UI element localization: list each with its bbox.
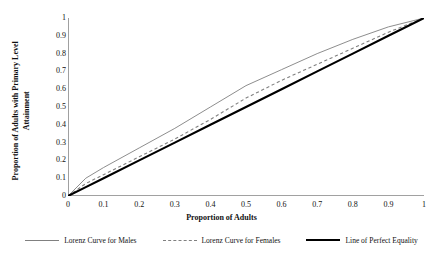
solid-thick-line-icon: [306, 239, 340, 241]
y-tick-label: 0.1: [32, 174, 66, 182]
legend-label-equality: Line of Perfect Equality: [345, 236, 417, 245]
y-tick-label: 0.9: [32, 32, 66, 40]
x-tick-label: 0.9: [383, 201, 393, 209]
chart-legend: Lorenz Curve for Males Lorenz Curve for …: [0, 232, 443, 248]
legend-label-females: Lorenz Curve for Females: [202, 236, 281, 245]
y-tick-label: 0: [32, 192, 66, 200]
x-tick-label: 0.7: [312, 201, 322, 209]
y-tick-label: 0.2: [32, 156, 66, 164]
x-tick-label: 0.5: [241, 201, 251, 209]
x-tick-label: 0.2: [134, 201, 144, 209]
x-tick-label: 0.3: [170, 201, 180, 209]
y-tick-label: 0.4: [32, 121, 66, 129]
lorenz-curve-chart: 00.10.20.30.40.50.60.70.80.91 00.10.20.3…: [0, 0, 443, 259]
legend-label-males: Lorenz Curve for Males: [64, 236, 136, 245]
y-tick-label: 1: [32, 14, 66, 22]
y-tick-label: 0.8: [32, 50, 66, 58]
x-tick-label: 0.4: [205, 201, 215, 209]
y-tick-label: 0.3: [32, 139, 66, 147]
y-axis-title-line-1: Proportion of Adults with Primary Level: [11, 21, 22, 201]
y-tick-label: 0.5: [32, 103, 66, 111]
legend-item-equality: Line of Perfect Equality: [306, 236, 417, 245]
x-tick-label: 1: [422, 201, 426, 209]
legend-item-females: Lorenz Curve for Females: [163, 236, 281, 245]
dashed-line-icon: [163, 240, 197, 241]
series-line-line-of-perfect-equality: [68, 18, 424, 196]
y-tick-label: 0.7: [32, 67, 66, 75]
x-tick-label: 0.1: [99, 201, 109, 209]
plot-area: [68, 18, 424, 196]
x-tick-label: 0: [66, 201, 70, 209]
x-axis-title: Proportion of Adults: [0, 213, 443, 222]
x-tick-label: 0.8: [348, 201, 358, 209]
y-axis-title-line-2: Attainment: [22, 91, 31, 130]
legend-item-males: Lorenz Curve for Males: [25, 236, 136, 245]
y-tick-label: 0.6: [32, 85, 66, 93]
x-tick-label: 0.6: [277, 201, 287, 209]
plot-svg: [68, 18, 424, 196]
solid-thin-line-icon: [25, 240, 59, 241]
x-axis-tick-labels: 00.10.20.30.40.50.60.70.80.91: [0, 201, 443, 213]
y-axis-title: Proportion of Adults with Primary Level …: [11, 21, 33, 201]
